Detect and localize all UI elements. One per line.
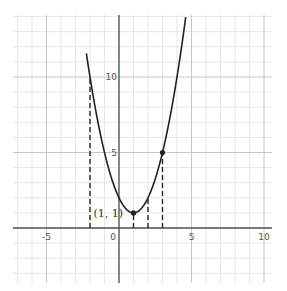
- data-point: [131, 210, 136, 215]
- tick-labels: -50510510: [42, 72, 270, 242]
- function-plot: (1, 1) -50510510: [0, 0, 287, 291]
- x-tick-label: 10: [258, 232, 270, 242]
- x-tick-label: 0: [110, 232, 116, 242]
- minor-grid: [13, 15, 272, 283]
- x-tick-label: 5: [189, 232, 195, 242]
- y-tick-label: 5: [111, 148, 117, 158]
- x-tick-label: -5: [42, 232, 51, 242]
- data-point: [160, 150, 165, 155]
- y-tick-label: 10: [106, 72, 118, 82]
- point-label: (1, 1): [94, 207, 124, 220]
